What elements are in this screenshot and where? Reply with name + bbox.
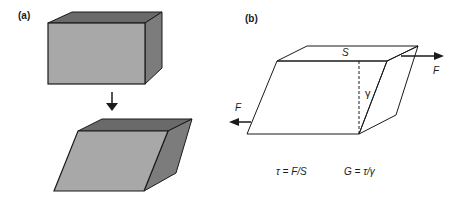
force-right-label: F (433, 65, 440, 76)
undeformed-box (48, 12, 162, 84)
panel-a-label: (a) (18, 10, 30, 21)
modulus-equation: G = τ/γ (344, 166, 376, 177)
strain-label: γ (365, 87, 371, 99)
right-force-arrow-icon (401, 52, 444, 60)
box-front-face (48, 23, 145, 84)
panel-b-label: (b) (245, 13, 258, 24)
left-force-arrow-icon (229, 118, 251, 126)
box-side-face (145, 12, 162, 84)
sheared-box (54, 119, 192, 191)
shear-parallelepiped (247, 46, 418, 134)
stress-equation: τ = F/S (276, 166, 307, 177)
box-top-face (48, 12, 162, 23)
shear-diagram: (a) (b) S γ F F τ = F/S G = τ/γ (0, 0, 462, 200)
area-label: S (342, 47, 349, 58)
down-arrow-icon (106, 92, 118, 111)
force-left-label: F (235, 102, 242, 113)
